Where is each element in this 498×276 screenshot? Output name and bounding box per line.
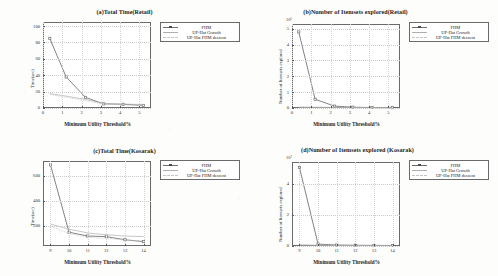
x-axis-label-d: Minimum Utility Threshold% xyxy=(269,259,424,265)
data-point-marker xyxy=(314,98,316,100)
y-tick-mark xyxy=(43,92,45,93)
series-line-fhm xyxy=(299,32,393,108)
chart-panel-d: (d)Number of Itemsets explored (Kosarak)… xyxy=(249,138,498,276)
x-gridline xyxy=(144,161,145,246)
y-tick-label: 0 xyxy=(268,243,289,248)
y-gridline xyxy=(292,184,400,185)
y-gridline xyxy=(43,92,151,93)
data-point-marker xyxy=(333,105,335,107)
y-axis-label-c: Time(sec) xyxy=(30,207,35,226)
x-tick-mark xyxy=(369,106,370,108)
x-tick-label: 5 xyxy=(132,110,146,115)
legend-item: UP-Hat FHM descent xyxy=(163,173,237,178)
x-gridline xyxy=(393,162,394,246)
y-tick-mark xyxy=(292,92,294,93)
x-tick-mark xyxy=(350,106,351,108)
y-gridline xyxy=(292,29,400,30)
series-layer-d xyxy=(292,162,400,246)
legend-b: FHMUP-Hat GrowthUP-Hat FHM descent xyxy=(409,22,489,42)
x-gridline xyxy=(120,22,121,108)
x-tick-mark xyxy=(292,106,293,108)
x-tick-label: 10 xyxy=(62,248,76,253)
y-gridline xyxy=(292,246,400,247)
x-tick-label: 4 xyxy=(362,110,376,115)
x-tick-mark xyxy=(50,244,51,246)
x-gridline xyxy=(318,162,319,246)
x-tick-label: 10 xyxy=(311,248,325,253)
legend-label: UP-Hat FHM descent xyxy=(178,35,237,40)
x-gridline xyxy=(101,22,102,108)
plot-area-a xyxy=(43,22,151,108)
x-tick-mark xyxy=(388,106,389,108)
x-tick-label: 1 xyxy=(304,110,318,115)
x-tick-label: 0 xyxy=(36,110,50,115)
y-gridline xyxy=(43,26,151,27)
y-tick-mark xyxy=(292,108,294,109)
x-gridline xyxy=(62,22,63,108)
x-tick-mark xyxy=(88,244,89,246)
y-tick-mark xyxy=(292,215,294,216)
x-gridline xyxy=(350,24,351,108)
series-layer-a xyxy=(43,22,151,108)
legend-key-icon xyxy=(163,35,178,40)
y-tick-mark xyxy=(292,246,294,247)
x-gridline xyxy=(292,24,293,108)
series-layer-c xyxy=(43,161,151,246)
x-tick-label: 4 xyxy=(113,110,127,115)
y-tick-mark xyxy=(43,59,45,60)
legend-c: FHMUP-Hat GrowthUP-Hat FHM descent xyxy=(160,160,240,180)
y-gridline xyxy=(43,59,151,60)
x-tick-label: 3 xyxy=(343,110,357,115)
series-line-up-hat-growth xyxy=(50,94,144,105)
legend-item: UP-Hat FHM descent xyxy=(412,173,486,178)
x-tick-label: 12 xyxy=(348,248,362,253)
x-gridline xyxy=(388,24,389,108)
y-axis-label-a: Time(sec) xyxy=(30,69,35,88)
x-gridline xyxy=(125,161,126,246)
y-tick-label: 20 xyxy=(19,89,40,94)
x-tick-label: 9 xyxy=(292,248,306,253)
figure-grid: (a)Total Time(Retail) 020406080100012345… xyxy=(0,0,498,276)
y-tick-mark xyxy=(292,45,294,46)
x-tick-mark xyxy=(69,244,70,246)
x-tick-mark xyxy=(144,244,145,246)
chart-title-a: (a)Total Time(Retail) xyxy=(0,9,249,15)
y-tick-label: 400 xyxy=(19,198,40,203)
x-axis-label-a: Minimum Utility Threshold% xyxy=(20,121,175,127)
x-gridline xyxy=(355,162,356,246)
x-tick-label: 12 xyxy=(99,248,113,253)
data-point-marker xyxy=(84,96,86,98)
legend-a: FHMUP-Hat GrowthUP-Hat FHM descent xyxy=(160,22,240,42)
y-tick-mark xyxy=(43,226,45,227)
chart-title-b: (b)Number of Itemsets explored(Retail) xyxy=(231,9,480,15)
y-tick-mark xyxy=(43,75,45,76)
y-tick-mark xyxy=(43,108,45,109)
y-tick-mark xyxy=(292,184,294,185)
legend-key-icon xyxy=(412,173,427,178)
x-tick-label: 2 xyxy=(324,110,338,115)
x-tick-mark xyxy=(62,106,63,108)
y-tick-label: 60 xyxy=(19,56,40,61)
y-tick-mark xyxy=(292,76,294,77)
y-gridline xyxy=(292,45,400,46)
plot-area-b xyxy=(292,24,400,108)
legend-item: UP-Hat FHM descent xyxy=(163,35,237,40)
x-gridline xyxy=(369,24,370,108)
x-gridline xyxy=(88,161,89,246)
y-gridline xyxy=(43,42,151,43)
chart-panel-b: (b)Number of Itemsets explored(Retail) 0… xyxy=(249,0,498,138)
y-gridline xyxy=(43,108,151,109)
x-tick-mark xyxy=(101,106,102,108)
x-tick-label: 13 xyxy=(118,248,132,253)
x-tick-mark xyxy=(125,244,126,246)
y-tick-label: 600 xyxy=(19,173,40,178)
y-tick-label: 4 xyxy=(268,42,289,47)
y-tick-label: 5 xyxy=(268,26,289,31)
y-gridline xyxy=(292,76,400,77)
x-axis-label-c: Minimum Utility Threshold% xyxy=(20,259,175,265)
x-tick-mark xyxy=(106,244,107,246)
y-gridline xyxy=(43,176,151,177)
y-tick-mark xyxy=(43,176,45,177)
legend-label: UP-Hat FHM descent xyxy=(427,173,486,178)
x-gridline xyxy=(69,161,70,246)
